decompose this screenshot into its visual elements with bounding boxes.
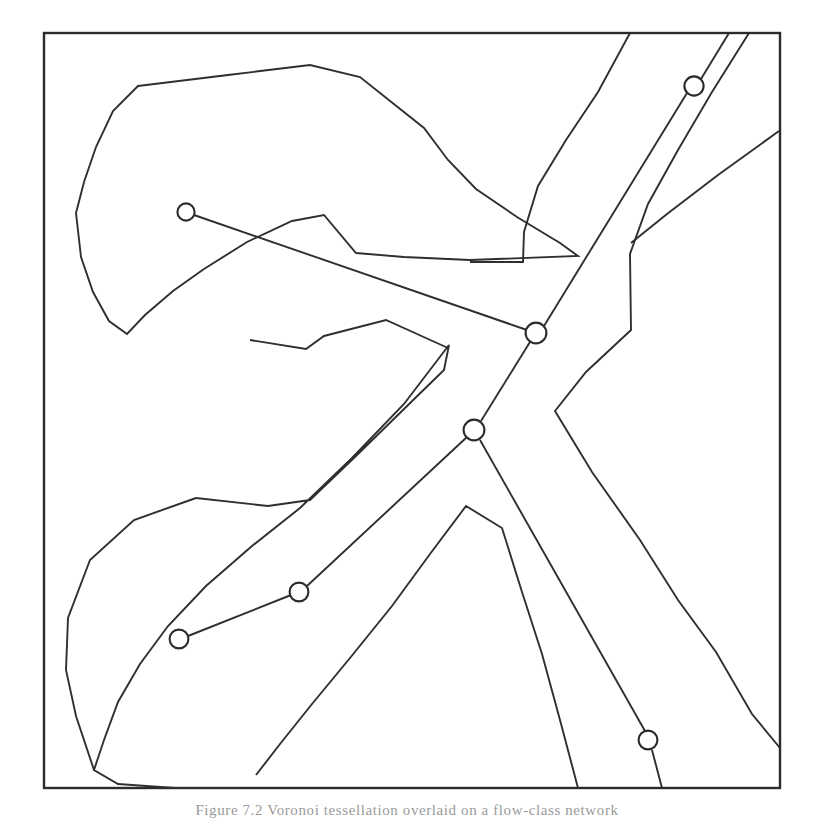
graph-nodes (170, 76, 704, 749)
node-central-upper-hub[interactable] (526, 323, 547, 344)
region-upper-left-cell (76, 65, 578, 334)
node-upper-right-site[interactable] (684, 76, 703, 95)
edge-n3-n6 (307, 437, 467, 586)
region-lower-left-cell (94, 345, 449, 788)
node-central-lower-hub[interactable] (464, 420, 485, 441)
voronoi-network-figure (0, 0, 814, 821)
region-boundaries (66, 33, 780, 788)
edge-n3-n7 (480, 440, 645, 731)
region-central-notch (250, 320, 448, 349)
region-bottom-middle-branch (256, 506, 578, 788)
edge-n1-n2 (194, 215, 527, 330)
edge-n2-n4 (544, 93, 687, 326)
edge-n6-n5 (188, 595, 291, 636)
edge-n7-frame-bottom (652, 750, 662, 788)
node-lower-left-outer-site[interactable] (170, 630, 189, 649)
figure-root: Figure 7.2 Voronoi tessellation overlaid… (0, 0, 814, 821)
region-upper-right-boundary (470, 33, 630, 262)
region-right-star-boundary (555, 33, 780, 748)
edge-n2-n3 (481, 342, 530, 421)
figure-caption: Figure 7.2 Voronoi tessellation overlaid… (0, 800, 814, 821)
graph-edges (188, 33, 729, 788)
node-lower-right-site[interactable] (639, 731, 658, 750)
node-upper-left-site[interactable] (177, 203, 194, 220)
figure-frame (44, 33, 780, 788)
node-lower-left-inner-site[interactable] (290, 583, 309, 602)
